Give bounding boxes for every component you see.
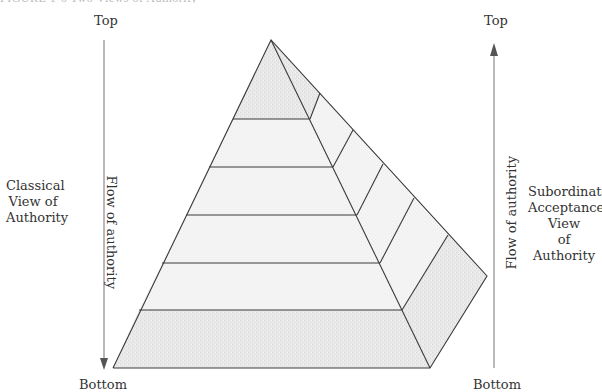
arrow-down-icon — [100, 358, 108, 370]
classical-view-line-2: View of — [6, 194, 60, 210]
left-top-label: Top — [94, 13, 118, 28]
front-tier-6 — [113, 310, 430, 368]
right-flow-arrow — [490, 43, 498, 368]
right-flow-label: Flow of authority — [504, 170, 519, 270]
classical-view-line-3: Authority — [6, 210, 60, 226]
subordinate-view-line-5: Authority — [528, 248, 600, 264]
front-tier-3 — [186, 167, 357, 215]
front-tier-5 — [139, 263, 402, 310]
subordinate-view-line-2: Acceptance — [528, 200, 600, 216]
subordinate-view-line-1: Subordinate — [528, 184, 600, 200]
right-bottom-label: Bottom — [473, 377, 521, 392]
classical-view-line-1: Classical — [6, 178, 60, 194]
subordinate-view-line-4: of — [528, 232, 600, 248]
subordinate-acceptance-view-label: Subordinate Acceptance View of Authority — [528, 184, 600, 264]
classical-view-label: Classical View of Authority — [6, 178, 60, 226]
subordinate-view-line-3: View — [528, 216, 600, 232]
right-top-label: Top — [484, 13, 508, 28]
arrow-up-icon — [490, 43, 498, 56]
left-flow-label: Flow of authority — [104, 176, 119, 266]
left-bottom-label: Bottom — [79, 377, 127, 392]
front-tier-4 — [162, 215, 380, 263]
